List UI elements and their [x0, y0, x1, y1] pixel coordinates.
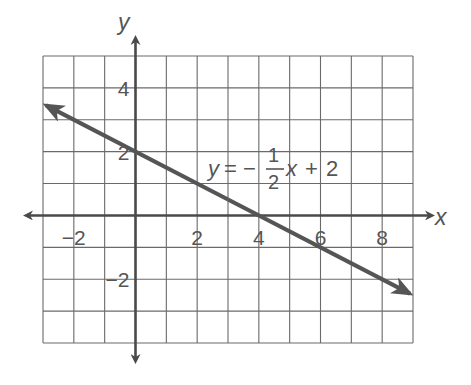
equation-equals: = — [224, 156, 237, 181]
equation-plus: + — [305, 156, 318, 181]
x-axis-label: x — [434, 204, 448, 230]
equation-denominator: 2 — [268, 171, 279, 193]
y-tick-label: −2 — [106, 268, 130, 291]
y-axis-label: y — [116, 9, 131, 35]
y-tick-label: 4 — [118, 77, 130, 100]
equation-numerator: 1 — [268, 144, 279, 166]
x-tick-label: −2 — [62, 226, 86, 249]
x-tick-label: 8 — [376, 226, 388, 249]
x-tick-label: 4 — [253, 226, 265, 249]
equation-constant: 2 — [326, 156, 338, 181]
equation-variable: x — [285, 156, 298, 181]
x-tick-label: 2 — [191, 226, 203, 249]
linear-function-graph: −2246842−2 x y y = − 1 2 x + 2 — [0, 0, 471, 385]
equation-lhs: y — [206, 156, 221, 181]
equation-minus: − — [243, 156, 256, 181]
